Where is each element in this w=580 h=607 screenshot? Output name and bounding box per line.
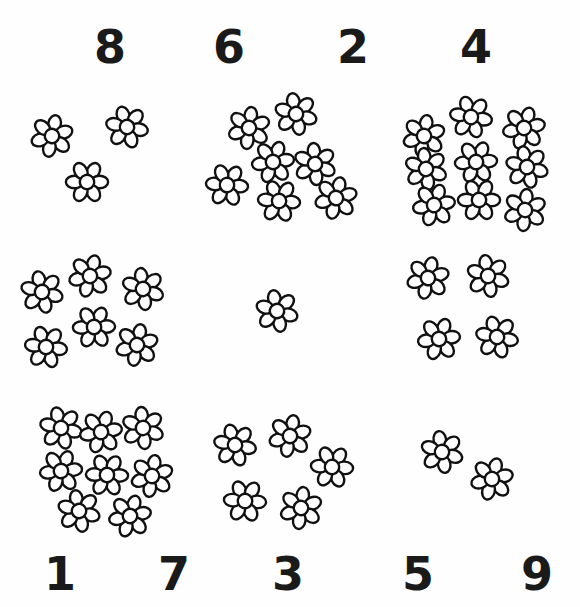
flower-icon <box>63 158 111 206</box>
flower-icon <box>503 143 551 191</box>
flower-icon <box>468 455 516 503</box>
flower-icon <box>464 252 512 300</box>
flower-icon <box>455 176 503 224</box>
flower-icon <box>501 186 549 234</box>
answer-numeral-bottom-9[interactable]: 9 <box>521 551 553 597</box>
flower-icon <box>211 421 259 469</box>
flower-icon <box>106 492 154 540</box>
flower-icon <box>272 90 320 138</box>
answer-numeral-bottom-5[interactable]: 5 <box>402 551 434 597</box>
flower-icon <box>203 161 251 209</box>
flower-icon <box>253 287 301 335</box>
flower-icon <box>119 265 167 313</box>
flower-icon <box>312 174 360 222</box>
answer-numeral-top-8[interactable]: 8 <box>94 24 126 70</box>
flower-icon <box>473 313 521 361</box>
flower-icon <box>55 487 103 535</box>
flower-icon <box>28 112 76 160</box>
flower-icon <box>70 303 118 351</box>
flower-icon <box>447 93 495 141</box>
answer-numeral-top-6[interactable]: 6 <box>213 24 245 70</box>
worksheet-page: 8624 17359 <box>0 0 580 607</box>
flower-icon <box>113 321 161 369</box>
flower-icon <box>103 103 151 151</box>
answer-numeral-bottom-7[interactable]: 7 <box>158 551 190 597</box>
flower-icon <box>415 315 463 363</box>
flower-icon <box>66 252 114 300</box>
answer-numeral-top-2[interactable]: 2 <box>337 24 369 70</box>
flower-icon <box>119 404 167 452</box>
flower-icon <box>221 477 269 525</box>
answer-numeral-top-4[interactable]: 4 <box>460 24 492 70</box>
flower-icon <box>255 177 303 225</box>
flower-icon <box>277 484 325 532</box>
answer-numeral-bottom-1[interactable]: 1 <box>44 551 76 597</box>
flower-icon <box>410 181 458 229</box>
flower-icon <box>18 268 66 316</box>
flower-icon <box>22 323 70 371</box>
flower-icon <box>266 412 314 460</box>
flower-icon <box>418 428 466 476</box>
answer-numeral-bottom-3[interactable]: 3 <box>272 551 304 597</box>
flower-icon <box>404 254 452 302</box>
